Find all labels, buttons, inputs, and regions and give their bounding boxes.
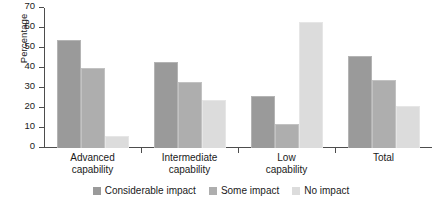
legend-swatch-icon (292, 187, 300, 195)
y-axis-tick-label: 10 (24, 120, 35, 131)
y-axis-tick: 0 (39, 147, 44, 148)
legend-item: No impact (292, 185, 349, 196)
y-axis-tick-label: 50 (24, 40, 35, 51)
bar (105, 136, 129, 148)
legend-swatch-icon (209, 187, 217, 195)
y-axis-tick: 10 (39, 127, 44, 128)
bar (202, 100, 226, 148)
x-axis-category-label: Total (335, 152, 432, 164)
x-axis-category-label-line: capability (44, 164, 141, 176)
y-axis-tick-label: 60 (24, 20, 35, 31)
y-axis-tick-label: 0 (30, 140, 35, 151)
y-axis-tick: 30 (39, 87, 44, 88)
x-axis-category-label-line: Intermediate (141, 152, 238, 164)
y-axis-tick: 70 (39, 7, 44, 8)
legend-swatch-icon (93, 187, 101, 195)
bar (81, 68, 105, 148)
x-axis-category-label-line: capability (238, 164, 335, 176)
y-axis-tick-label: 30 (24, 80, 35, 91)
y-axis-tick: 60 (39, 27, 44, 28)
bar (251, 96, 275, 148)
bar (178, 82, 202, 148)
x-axis-category-label-line: Low (238, 152, 335, 164)
chart-legend: Considerable impactSome impactNo impact (0, 185, 442, 196)
x-axis-category-label: Advancedcapability (44, 152, 141, 176)
bar (348, 56, 372, 148)
y-axis-tick: 20 (39, 107, 44, 108)
y-axis-tick-label: 40 (24, 60, 35, 71)
legend-item: Considerable impact (93, 185, 196, 196)
y-axis-tick-label: 70 (24, 0, 35, 11)
y-axis-tick-label: 20 (24, 100, 35, 111)
x-axis-category-label: Lowcapability (238, 152, 335, 176)
y-axis-tick: 40 (39, 67, 44, 68)
x-axis-category-label-line: capability (141, 164, 238, 176)
legend-item-label: No impact (304, 185, 349, 196)
legend-item: Some impact (209, 185, 279, 196)
legend-item-label: Considerable impact (105, 185, 196, 196)
bar (299, 22, 323, 148)
x-axis-category-label: Intermediatecapability (141, 152, 238, 176)
y-axis-line (44, 8, 45, 148)
x-axis-category-label-line: Total (335, 152, 432, 164)
bar-chart: Percentage 010203040506070 Advancedcapab… (0, 0, 442, 204)
bar (57, 40, 81, 148)
x-axis-category-label-line: Advanced (44, 152, 141, 164)
y-axis-tick: 50 (39, 47, 44, 48)
bar (396, 106, 420, 148)
legend-item-label: Some impact (221, 185, 279, 196)
bar (372, 80, 396, 148)
bar (275, 124, 299, 148)
plot-area: 010203040506070 (44, 8, 432, 148)
bar (154, 62, 178, 148)
